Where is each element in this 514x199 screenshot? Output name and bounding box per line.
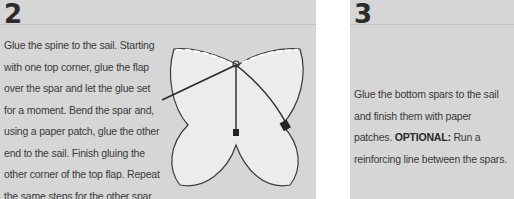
step-instructions: Glue the bottom spars to the sail and fi… [354,84,512,170]
step-instructions: Glue the spine to the sail. Starting wit… [4,35,164,199]
divider [350,24,514,25]
step-3-panel: 3 Glue the bottom spars to the sail and … [350,0,514,199]
step-2-panel: 2 Glue the spine to the sail. Starting w… [0,0,316,199]
divider [0,24,316,25]
optional-label: OPTIONAL: [395,131,451,143]
kite-illustration-icon [160,35,310,190]
